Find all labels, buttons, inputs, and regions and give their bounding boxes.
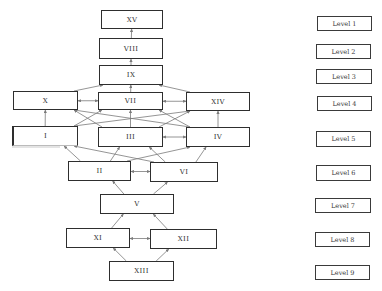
node-xv: XV: [101, 10, 163, 29]
level-text: Level 4: [333, 100, 357, 108]
edge-v-vi: [153, 182, 167, 194]
level-label-2: Level 2: [316, 44, 371, 59]
node-viii: VIII: [99, 38, 163, 59]
node-label: IX: [127, 71, 135, 79]
edge-vi-i: [74, 146, 154, 162]
node-label: VIII: [124, 45, 139, 53]
node-label: XI: [94, 234, 102, 242]
node-label: I: [44, 132, 47, 140]
level-label-4: Level 4: [317, 96, 372, 111]
edge-vi-iii: [149, 147, 165, 162]
node-i: I: [12, 126, 78, 146]
level-label-1: Level 1: [317, 16, 372, 31]
level-label-9: Level 9: [315, 265, 370, 280]
edge-xiii-xi: [113, 248, 126, 261]
level-text: Level 2: [332, 48, 356, 56]
level-text: Level 5: [332, 135, 356, 143]
level-text: Level 7: [331, 202, 355, 210]
node-label: II: [96, 167, 102, 175]
edge-xiv-ix: [159, 85, 190, 92]
level-label-7: Level 7: [315, 198, 371, 213]
node-label: XIV: [211, 98, 225, 106]
node-iv: IV: [186, 127, 250, 147]
node-label: VI: [180, 168, 188, 176]
level-text: Level 1: [333, 20, 357, 28]
edge-vi-iv: [196, 147, 206, 162]
node-xi: XI: [66, 228, 130, 248]
edge-xi-v: [112, 214, 124, 228]
node-x: X: [13, 91, 78, 110]
level-text: Level 9: [331, 269, 355, 277]
node-iii: III: [98, 127, 163, 147]
node-xii: XII: [150, 229, 217, 249]
level-label-5: Level 5: [316, 131, 371, 147]
level-label-8: Level 8: [315, 232, 370, 247]
node-label: IV: [214, 133, 222, 141]
level-label-3: Level 3: [316, 69, 372, 84]
edge-ii-iv: [127, 147, 190, 161]
node-v: V: [100, 194, 174, 214]
node-label: XII: [178, 235, 189, 243]
node-label: XIII: [134, 267, 148, 275]
edge-iv-x: [74, 110, 190, 127]
node-xiv: XIV: [186, 92, 250, 111]
node-label: XV: [127, 16, 138, 24]
node-ix: IX: [99, 65, 163, 85]
node-label: X: [43, 97, 48, 105]
level-label-6: Level 6: [316, 165, 371, 181]
level-text: Level 3: [332, 73, 356, 81]
node-label: III: [126, 133, 135, 141]
node-label: V: [134, 200, 139, 208]
node-label: VII: [125, 97, 137, 105]
edge-xii-v: [153, 214, 167, 229]
edge-x-ix: [74, 85, 103, 91]
edge-v-ii: [113, 181, 124, 194]
level-text: Level 8: [331, 236, 355, 244]
edge-xiii-xii: [156, 249, 169, 261]
level-text: Level 6: [332, 169, 356, 177]
ism-diagram: XVVIIIIXXVIIXIVIIIIIVIIVIVXIXIIXIII Leve…: [0, 0, 382, 291]
node-ii: II: [68, 161, 131, 181]
node-vi: VI: [150, 162, 218, 182]
edge-ii-i: [64, 146, 80, 161]
node-xiii: XIII: [109, 261, 174, 281]
node-vii: VII: [98, 92, 163, 110]
